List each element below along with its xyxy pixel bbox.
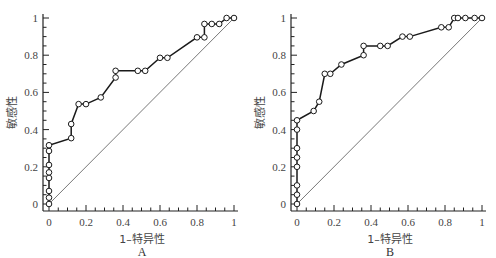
chart-a-svg: 00.20.40.60.8100.20.40.60.811–特异性敏感性A (0, 0, 248, 258)
data-point-marker (294, 164, 300, 170)
data-point-marker (294, 192, 300, 198)
data-point-marker (194, 35, 200, 41)
y-tick-label: 1 (281, 12, 287, 24)
x-tick-label: 1 (231, 216, 237, 228)
x-axis-title: 1–特异性 (367, 232, 413, 246)
y-tick-label: 0.6 (24, 86, 38, 98)
roc-chart-b: 00.20.40.60.8100.20.40.60.811–特异性敏感性B (248, 0, 496, 258)
data-point-marker (113, 75, 119, 81)
data-point-marker (407, 34, 413, 40)
data-point-marker (46, 148, 52, 154)
x-tick-label: 0 (294, 216, 300, 228)
data-point-marker (142, 68, 148, 74)
data-point-marker (400, 34, 406, 40)
x-tick-label: 0.6 (401, 216, 415, 228)
data-point-marker (472, 15, 478, 21)
data-point-marker (157, 55, 163, 61)
y-tick-label: 0.6 (272, 86, 286, 98)
y-tick-label: 1 (33, 12, 39, 24)
x-tick-label: 0.8 (438, 216, 452, 228)
x-tick-label: 0.2 (327, 216, 341, 228)
x-tick-label: 0.4 (364, 216, 378, 228)
data-point-marker (135, 68, 141, 74)
y-axis-title: 敏感性 (253, 96, 267, 129)
data-point-marker (46, 195, 52, 201)
data-point-marker (377, 43, 383, 49)
data-point-marker (339, 62, 345, 68)
data-point-marker (294, 118, 300, 124)
data-point-marker (202, 35, 208, 41)
x-tick-label: 0 (46, 216, 52, 228)
data-point-marker (76, 101, 82, 107)
y-tick-label: 0.2 (24, 161, 38, 173)
roc-chart-a: 00.20.40.60.8100.20.40.60.811–特异性敏感性A (0, 0, 248, 258)
panel-label: B (386, 245, 394, 258)
data-point-marker (46, 188, 52, 194)
data-point-marker (46, 170, 52, 176)
data-point-marker (294, 145, 300, 151)
data-point-marker (294, 127, 300, 133)
data-point-marker (216, 21, 222, 27)
y-tick-label: 0 (281, 198, 287, 210)
data-point-marker (479, 15, 485, 21)
x-tick-label: 1 (479, 216, 485, 228)
data-point-marker (361, 43, 367, 49)
data-point-marker (316, 99, 322, 105)
chart-b-svg: 00.20.40.60.8100.20.40.60.811–特异性敏感性B (248, 0, 496, 258)
y-tick-label: 0.2 (272, 161, 286, 173)
data-point-marker (83, 101, 89, 107)
panel-label: A (138, 245, 147, 258)
data-point-marker (446, 25, 452, 31)
data-point-marker (68, 121, 74, 127)
data-point-marker (322, 71, 328, 77)
data-point-marker (328, 71, 334, 77)
data-point-marker (385, 43, 391, 49)
data-point-marker (294, 183, 300, 189)
data-point-marker (165, 55, 171, 61)
data-point-marker (68, 135, 74, 141)
data-point-marker (439, 25, 445, 31)
data-point-marker (294, 201, 300, 207)
x-axis-title: 1–特异性 (119, 232, 165, 246)
x-tick-label: 0.2 (79, 216, 93, 228)
y-tick-label: 0.4 (24, 124, 38, 136)
data-point-marker (455, 15, 461, 21)
data-point-marker (46, 175, 52, 181)
data-point-marker (202, 21, 208, 27)
data-point-marker (113, 68, 119, 74)
data-point-marker (209, 21, 215, 27)
data-point-marker (361, 52, 367, 58)
y-tick-label: 0.8 (272, 49, 286, 61)
data-point-marker (463, 15, 469, 21)
data-point-marker (46, 142, 52, 148)
data-point-marker (98, 95, 104, 101)
data-point-marker (224, 15, 230, 21)
data-point-marker (231, 15, 237, 21)
data-point-marker (46, 162, 52, 168)
x-tick-label: 0.4 (116, 216, 130, 228)
y-tick-label: 0 (33, 198, 39, 210)
data-point-marker (294, 155, 300, 161)
x-tick-label: 0.6 (153, 216, 167, 228)
data-point-marker (311, 108, 317, 114)
x-tick-label: 0.8 (190, 216, 204, 228)
y-tick-label: 0.8 (24, 49, 38, 61)
y-axis-title: 敏感性 (5, 96, 19, 129)
data-point-marker (46, 201, 52, 207)
y-tick-label: 0.4 (272, 124, 286, 136)
